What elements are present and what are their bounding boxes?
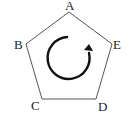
rotate-clockwise-icon xyxy=(48,37,93,79)
pentagon-diagram: A E D C B xyxy=(0,0,134,119)
pentagon-shape xyxy=(26,12,112,99)
vertex-label-c: C xyxy=(31,98,40,113)
vertex-label-e: E xyxy=(113,37,121,52)
vertex-label-a: A xyxy=(65,0,75,13)
vertex-label-b: B xyxy=(14,37,23,52)
vertex-label-d: D xyxy=(98,99,107,114)
